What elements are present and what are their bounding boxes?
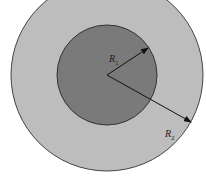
r2-label-sub: 2 xyxy=(171,134,175,142)
concentric-circles-diagram xyxy=(0,0,206,178)
r1-label-sub: 1 xyxy=(115,59,119,67)
r1-label: R1 xyxy=(109,53,119,67)
r2-label: R2 xyxy=(165,128,175,142)
